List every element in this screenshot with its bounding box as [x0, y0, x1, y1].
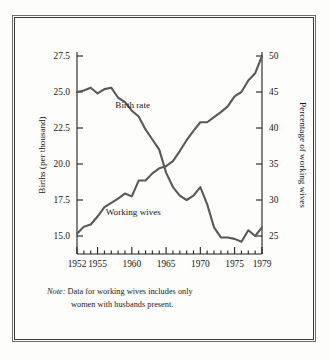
note-label: Note:	[47, 287, 65, 296]
series-annotation: Birth rate	[115, 100, 150, 110]
x-axis-tick-label: 1975	[225, 259, 244, 269]
note-line-2: women with husbands present.	[47, 299, 287, 312]
x-axis-tick-label: 1970	[191, 259, 210, 269]
y-axis-right-title: Percentage of working wives	[298, 102, 308, 208]
y-axis-right-tick-label: 50	[269, 51, 279, 61]
series-line-working-wives	[77, 56, 262, 234]
y-axis-left-tick-label: 20.0	[54, 159, 71, 169]
figure-frame: 15.017.520.022.525.027.5Births (per thou…	[14, 17, 314, 340]
y-axis-right-tick-label: 40	[269, 123, 279, 133]
y-axis-left-tick-label: 22.5	[54, 123, 71, 133]
y-axis-left-title: Births (per thousand)	[37, 116, 47, 193]
line-chart: 15.017.520.022.525.027.5Births (per thou…	[15, 18, 315, 273]
y-axis-right-tick-label: 30	[269, 195, 279, 205]
y-axis-left-tick-label: 27.5	[54, 51, 71, 61]
note-line-1: Data for working wives includes only	[65, 287, 192, 296]
figure-note: Note: Data for working wives includes on…	[47, 286, 287, 311]
y-axis-left-tick-label: 17.5	[54, 195, 71, 205]
y-axis-right-tick-label: 45	[269, 87, 279, 97]
x-axis-tick-label: 1952	[68, 259, 87, 269]
y-axis-right-tick-label: 35	[269, 159, 279, 169]
x-axis-tick-label: 1955	[88, 259, 107, 269]
series-annotation: Working wives	[106, 207, 162, 217]
y-axis-right-tick-label: 25	[269, 231, 279, 241]
x-axis-tick-label: 1960	[122, 259, 141, 269]
x-axis-tick-label: 1965	[157, 259, 176, 269]
y-axis-left-tick-label: 25.0	[54, 87, 71, 97]
y-axis-left-tick-label: 15.0	[54, 231, 71, 241]
x-axis-tick-label: 1979	[253, 259, 272, 269]
